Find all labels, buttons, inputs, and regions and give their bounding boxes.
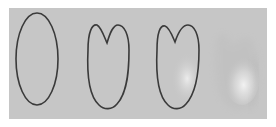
shape-sequence-figure [0,0,276,127]
